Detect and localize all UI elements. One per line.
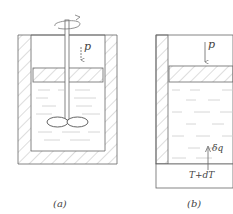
panel-b — [156, 35, 233, 188]
left-wall-b — [156, 35, 168, 164]
piston-b — [169, 66, 233, 82]
fluid-lines-b — [172, 90, 233, 158]
diagram-canvas — [0, 0, 233, 214]
caption-a: (a) — [53, 198, 67, 209]
reservoir-label-b: T+dT — [189, 170, 214, 180]
impeller-right — [67, 117, 88, 127]
heat-label-b: δq — [212, 143, 223, 153]
shaft-a — [65, 20, 69, 120]
panel-a — [18, 15, 117, 164]
caption-b: (b) — [187, 198, 201, 209]
pressure-label-b: p — [208, 38, 215, 51]
impeller-left — [47, 117, 68, 127]
pressure-label-a: p — [84, 40, 91, 53]
